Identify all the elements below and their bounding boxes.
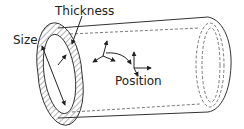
left-end-ring xyxy=(37,23,84,125)
thickness-label: Thickness xyxy=(54,4,114,18)
tube-diagram: Thickness Size Position xyxy=(0,0,244,129)
position-triad-target xyxy=(134,52,151,76)
thickness-inner-arrow xyxy=(58,55,66,65)
position-triad-origin xyxy=(93,41,115,62)
right-end-outer-arc xyxy=(208,17,231,112)
right-end-hidden-inner xyxy=(202,28,220,102)
bottom-inner-hidden-edge xyxy=(72,104,200,112)
size-label: Size xyxy=(13,33,38,47)
top-inner-hidden-edge xyxy=(70,28,200,34)
thickness-leader-arrow xyxy=(72,16,82,44)
bottom-outer-edge xyxy=(58,112,208,118)
top-outer-edge xyxy=(58,17,208,28)
position-label: Position xyxy=(115,74,162,88)
